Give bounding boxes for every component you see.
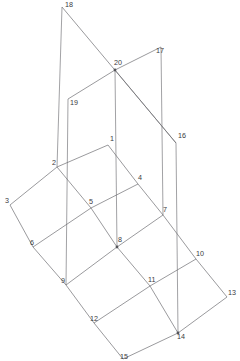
node-label-11: 11 <box>148 275 155 284</box>
node-label-6: 6 <box>30 238 34 247</box>
grid-edge-5-4 <box>91 184 138 208</box>
wireframe-svg: 1234567891011121314151617181920 <box>0 0 240 361</box>
grid-edge-6-5 <box>33 208 91 247</box>
grid-edge-1-4 <box>108 145 138 184</box>
node-label-19: 19 <box>70 98 78 107</box>
grid-edge-8-7 <box>117 215 163 247</box>
grid-edge-9-8 <box>66 247 117 285</box>
node-label-10: 10 <box>196 249 204 258</box>
upper-edge-19-20 <box>68 70 115 99</box>
node-dot-20 <box>114 69 117 72</box>
node-label-2: 2 <box>52 158 56 167</box>
node-label-20: 20 <box>114 58 122 67</box>
node-label-layer: 1234567891011121314151617181920 <box>5 0 236 361</box>
grid-edge-12-15 <box>94 323 123 359</box>
node-label-16: 16 <box>178 131 186 140</box>
grid-edge-11-14 <box>150 286 178 333</box>
node-label-4: 4 <box>138 173 142 182</box>
grid-edge-2-3 <box>10 167 57 205</box>
node-label-1: 1 <box>110 134 114 143</box>
vertical-edge-18-2 <box>57 7 62 167</box>
node-label-8: 8 <box>118 235 122 244</box>
grid-edge-11-10 <box>150 259 196 286</box>
node-label-15: 15 <box>120 352 128 361</box>
grid-edge-4-7 <box>138 184 163 215</box>
diagram-canvas: 1234567891011121314151617181920 <box>0 0 240 361</box>
vertical-edge-17-7 <box>161 47 163 215</box>
grid-edge-1-2 <box>57 145 108 167</box>
node-label-5: 5 <box>89 197 93 206</box>
grid-edge-15-14 <box>123 333 178 359</box>
base-grid-edge-layer <box>10 145 227 359</box>
node-label-17: 17 <box>156 46 164 55</box>
upper-plane-edge-layer <box>62 7 176 143</box>
node-label-14: 14 <box>177 332 185 341</box>
node-label-18: 18 <box>65 0 73 9</box>
grid-edge-12-11 <box>94 286 150 323</box>
vertical-edge-16-14 <box>176 143 178 333</box>
vertical-edge-20-8 <box>115 70 117 247</box>
node-label-9: 9 <box>61 276 65 285</box>
grid-edge-5-8 <box>91 208 117 247</box>
node-label-7: 7 <box>163 205 167 214</box>
vertical-edge-layer <box>57 7 178 333</box>
node-dot-layer <box>114 69 180 335</box>
grid-edge-14-13 <box>178 297 227 333</box>
node-label-3: 3 <box>5 196 9 205</box>
grid-edge-2-5 <box>57 167 91 208</box>
upper-edge-20-16 <box>115 70 176 143</box>
vertical-edge-19-9 <box>66 99 68 285</box>
node-dot-8 <box>116 246 119 249</box>
node-label-13: 13 <box>228 288 236 297</box>
grid-edge-8-11 <box>117 247 150 286</box>
node-label-12: 12 <box>90 314 98 323</box>
grid-edge-7-10 <box>163 215 196 259</box>
grid-edge-10-13 <box>196 259 227 297</box>
